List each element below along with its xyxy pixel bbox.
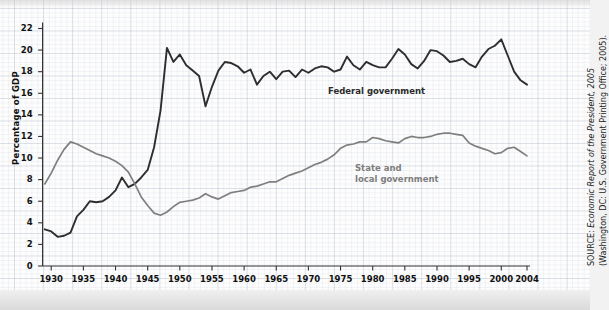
series-label-state-local: State and local government xyxy=(355,163,439,185)
source-citation: SOURCE: Economic Report of the President… xyxy=(586,16,609,266)
y-tick-label: 2 xyxy=(11,239,33,249)
x-tick-label: 1965 xyxy=(260,274,292,284)
series-label-state-local-line2: local government xyxy=(355,174,439,184)
x-tick-label: 1960 xyxy=(228,274,260,284)
y-tick-label: 8 xyxy=(11,174,33,184)
chart-series-lines xyxy=(45,39,527,237)
y-axis-title: Percentage of GDP xyxy=(11,85,21,165)
x-tick-label: 1935 xyxy=(67,274,99,284)
x-tick-label: 1930 xyxy=(35,274,67,284)
x-tick-label: 1985 xyxy=(389,274,421,284)
source-prefix: SOURCE: xyxy=(587,228,596,266)
series-label-state-local-line1: State and xyxy=(355,163,402,173)
y-tick-label: 4 xyxy=(11,217,33,227)
x-tick-label: 1970 xyxy=(292,274,324,284)
chart-axes xyxy=(38,23,530,271)
x-tick-label: 1990 xyxy=(421,274,453,284)
x-tick-label: 1955 xyxy=(196,274,228,284)
x-tick-label: 1980 xyxy=(357,274,389,284)
series-label-federal: Federal government xyxy=(328,86,425,97)
x-tick-label: 2004 xyxy=(511,274,543,284)
source-title: Economic Report of the President, 2005 xyxy=(587,68,596,228)
x-tick-label: 1975 xyxy=(325,274,357,284)
y-tick-label: 20 xyxy=(11,45,33,55)
y-tick-label: 0 xyxy=(11,261,33,271)
line-federal-government xyxy=(45,39,527,237)
x-tick-label: 1950 xyxy=(164,274,196,284)
source-suffix: (Washington, DC: U.S. Government Printin… xyxy=(599,35,608,266)
x-tick-label: 1940 xyxy=(100,274,132,284)
y-tick-label: 22 xyxy=(11,23,33,33)
x-tick-label: 1945 xyxy=(132,274,164,284)
x-tick-label: 1995 xyxy=(453,274,485,284)
y-tick-label: 6 xyxy=(11,196,33,206)
line-state-local-government xyxy=(45,133,527,215)
